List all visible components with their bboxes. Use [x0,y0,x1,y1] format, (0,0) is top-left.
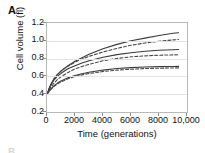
x-tick-mark [74,113,75,116]
x-tick-label: 8000 [148,116,168,125]
x-tick-mark [46,113,47,116]
plot-area [46,22,188,113]
curve-population-3-fitted [47,68,179,94]
figure-panel-a: A Cell volume (fl) 0.20.40.60.81.01.2 02… [0,0,205,153]
curve-population-1-observed [47,33,179,94]
y-axis-tick-labels: 0.20.40.60.81.01.2 [17,17,44,118]
curve-population-2-observed [47,50,179,95]
y-tick-mark [43,111,46,112]
curve-population-2-fitted [47,55,179,94]
chart-curves [47,23,187,112]
x-tick-label: 0 [43,116,48,125]
x-tick-label: 10,000 [172,116,200,125]
x-tick-mark [186,113,187,116]
x-tick-mark [102,113,103,116]
y-tick-mark [43,75,46,76]
y-tick-mark [43,58,46,59]
x-tick-mark [130,113,131,116]
gridline [47,41,187,42]
gridline [47,94,187,95]
gridline [47,59,187,60]
gridline [47,76,187,77]
x-tick-label: 4000 [92,116,112,125]
next-panel-label: B [8,147,15,153]
y-tick-mark [43,93,46,94]
x-tick-mark [158,113,159,116]
x-tick-label: 6000 [120,116,140,125]
x-axis-label: Time (generations) [46,128,188,139]
y-tick-mark [43,22,46,23]
x-tick-label: 2000 [64,116,84,125]
y-tick-mark [43,40,46,41]
